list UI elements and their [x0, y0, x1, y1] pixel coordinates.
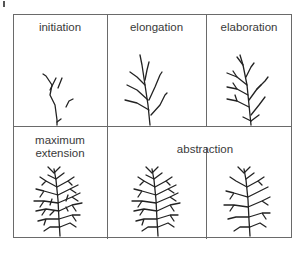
corner-mark — [3, 1, 5, 7]
tree-abstraction-2-icon — [220, 165, 280, 237]
column-divider-2-bottom — [206, 147, 207, 239]
row-divider — [14, 126, 291, 127]
tree-elongation-icon — [115, 45, 200, 126]
tree-initiation-icon — [30, 60, 90, 126]
tree-abstraction-1-icon — [128, 165, 188, 237]
stage-label-elongation: elongation — [107, 21, 206, 34]
column-divider-1 — [107, 15, 108, 239]
stage-label-abstraction: abstraction — [150, 143, 260, 156]
tree-maximum-extension-icon — [30, 165, 90, 237]
stage-label-elaboration: elaboration — [206, 21, 292, 34]
stage-label-maximum-extension: maximum extension — [20, 134, 100, 160]
tree-elaboration-icon — [215, 45, 285, 126]
stage-label-initiation: initiation — [13, 21, 107, 34]
